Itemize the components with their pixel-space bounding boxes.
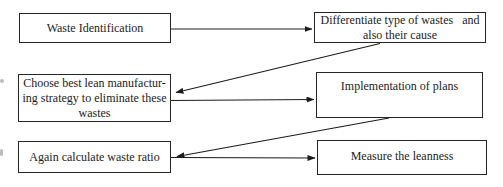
- box-measure-leanness-label: Measure the leanness: [318, 149, 486, 164]
- box-waste-identification-label: Waste Identification: [20, 21, 170, 36]
- box-waste-identification: Waste Identification: [19, 13, 171, 43]
- arrow-recalculate-to-measure: [171, 158, 315, 159]
- box-choose-strategy-label: Choose best lean manufactur- ing strateg…: [19, 76, 170, 121]
- lean-manufacturing-flowchart: Waste Identification Differentiate type …: [0, 0, 503, 187]
- scan-artifact: [0, 79, 4, 83]
- box-measure-leanness: Measure the leanness: [317, 140, 487, 175]
- box-implementation-label: Implementation of plans: [317, 79, 482, 94]
- box-implementation: Implementation of plans: [316, 72, 483, 118]
- arrow-choose-to-implementation: [171, 100, 314, 101]
- box-choose-strategy: Choose best lean manufactur- ing strateg…: [18, 74, 171, 122]
- box-differentiate-wastes-label: Differentiate type of wastes and also th…: [315, 13, 485, 43]
- box-recalculate-ratio: Again calculate waste ratio: [18, 141, 171, 173]
- scan-artifact: [0, 149, 3, 156]
- box-differentiate-wastes: Differentiate type of wastes and also th…: [314, 12, 486, 43]
- box-recalculate-ratio-label: Again calculate waste ratio: [19, 150, 170, 165]
